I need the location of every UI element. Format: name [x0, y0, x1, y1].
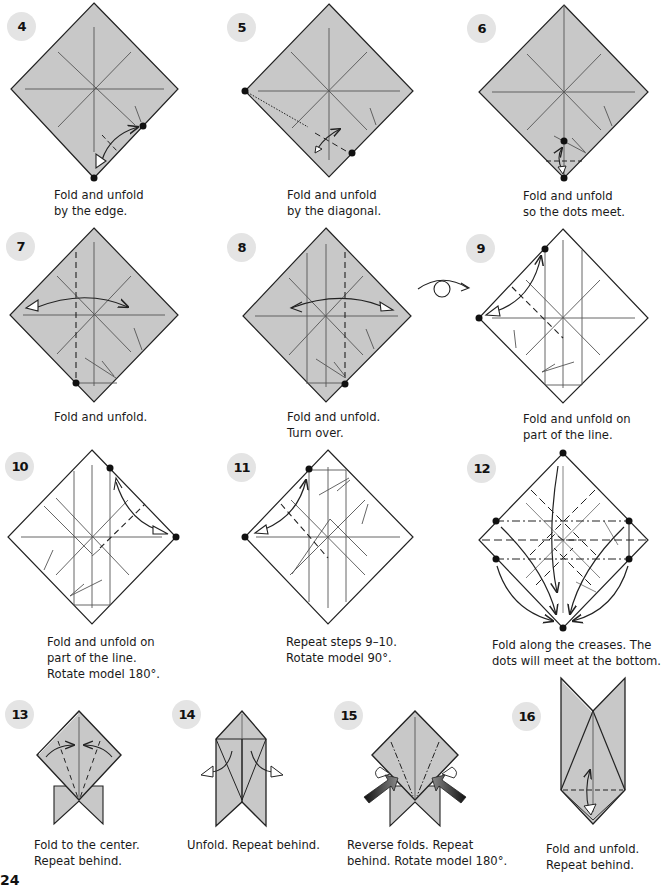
- caption-line: Repeat behind.: [546, 857, 639, 873]
- step-13-diagram: [37, 711, 121, 824]
- step-4-diagram: [11, 3, 178, 182]
- step-number-badge: 16: [512, 702, 541, 731]
- step-15-caption: Reverse folds. Repeat behind. Rotate mod…: [347, 837, 507, 869]
- caption-line: Rotate model 180°.: [47, 666, 160, 682]
- caption-line: Fold and unfold: [523, 188, 625, 204]
- step-9-caption: Fold and unfold on part of the line.: [523, 411, 631, 443]
- step-number-badge: 5: [227, 13, 256, 42]
- caption-line: Fold and unfold on: [523, 411, 631, 427]
- step-7-diagram: [10, 228, 178, 402]
- step-11-caption: Repeat steps 9–10. Rotate model 90°.: [286, 634, 397, 666]
- caption-line: Fold and unfold: [287, 187, 381, 203]
- step-number-badge: 15: [334, 701, 363, 730]
- step-16-diagram: [561, 678, 625, 824]
- caption-line: Fold to the center.: [34, 837, 140, 853]
- caption-line: part of the line.: [523, 427, 631, 443]
- step-number-badge: 13: [5, 700, 34, 729]
- caption-line: Repeat behind.: [34, 853, 140, 869]
- step-14-caption: Unfold. Repeat behind.: [187, 837, 320, 853]
- caption-line: Repeat steps 9–10.: [286, 634, 397, 650]
- step-6-diagram: [479, 5, 648, 182]
- step-4-caption: Fold and unfold by the edge.: [54, 187, 144, 219]
- caption-line: Fold and unfold: [54, 187, 144, 203]
- step-14-diagram: [201, 711, 283, 826]
- step-5-diagram: [242, 4, 414, 177]
- caption-line: Unfold. Repeat behind.: [187, 837, 320, 853]
- caption-line: Reverse folds. Repeat: [347, 837, 507, 853]
- page-number: 24: [0, 872, 19, 888]
- caption-line: dots will meet at the bottom.: [492, 653, 661, 669]
- step-number-badge: 14: [172, 700, 201, 729]
- step-12-caption: Fold along the creases. The dots will me…: [492, 637, 661, 669]
- caption-line: by the edge.: [54, 203, 144, 219]
- step-8-diagram: [243, 228, 411, 402]
- caption-line: behind. Rotate model 180°.: [347, 853, 507, 869]
- caption-line: Fold and unfold.: [546, 841, 639, 857]
- caption-line: Fold and unfold on: [47, 634, 160, 650]
- caption-line: Turn over.: [287, 425, 380, 441]
- step-11-diagram: [242, 450, 414, 624]
- step-8-caption: Fold and unfold. Turn over.: [287, 409, 380, 441]
- caption-line: Rotate model 90°.: [286, 650, 397, 666]
- step-15-diagram: [364, 711, 466, 826]
- step-13-caption: Fold to the center. Repeat behind.: [34, 837, 140, 869]
- turn-over-icon: [418, 280, 469, 297]
- caption-line: by the diagonal.: [287, 203, 381, 219]
- step-number-badge: 6: [467, 14, 496, 43]
- step-6-caption: Fold and unfold so the dots meet.: [523, 188, 625, 220]
- step-5-caption: Fold and unfold by the diagonal.: [287, 187, 381, 219]
- step-number-badge: 10: [5, 452, 34, 481]
- step-7-caption: Fold and unfold.: [54, 409, 147, 425]
- step-number-badge: 9: [466, 234, 495, 263]
- step-9-diagram: [476, 229, 649, 403]
- step-number-badge: 7: [6, 232, 35, 261]
- step-16-caption: Fold and unfold. Repeat behind.: [546, 841, 639, 873]
- step-number-badge: 8: [227, 233, 256, 262]
- step-10-diagram: [8, 450, 180, 624]
- step-number-badge: 11: [227, 453, 256, 482]
- step-10-caption: Fold and unfold on part of the line. Rot…: [47, 634, 160, 682]
- caption-line: part of the line.: [47, 650, 160, 666]
- caption-line: Fold and unfold.: [54, 409, 147, 425]
- step-12-diagram: [479, 450, 648, 632]
- step-number-badge: 12: [467, 454, 496, 483]
- caption-line: Fold and unfold.: [287, 409, 380, 425]
- caption-line: so the dots meet.: [523, 204, 625, 220]
- caption-line: Fold along the creases. The: [492, 637, 661, 653]
- step-number-badge: 4: [7, 12, 36, 41]
